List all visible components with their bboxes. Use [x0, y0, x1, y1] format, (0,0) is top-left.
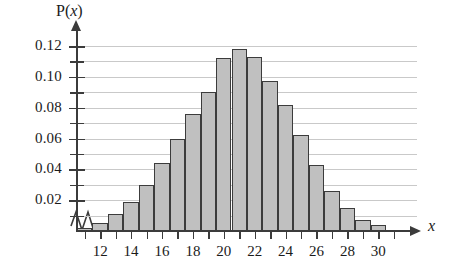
x-axis-tick-label: 20	[209, 243, 239, 259]
histogram-bar	[139, 185, 154, 231]
x-axis-tick	[224, 231, 225, 239]
x-axis-tick	[255, 231, 256, 239]
histogram-bar	[108, 214, 123, 231]
x-axis-tick	[85, 231, 86, 239]
histogram-bar	[185, 114, 200, 231]
x-axis-tick	[286, 231, 287, 239]
histogram-bar	[154, 163, 169, 231]
y-axis-arrow-icon	[71, 20, 81, 31]
x-axis-tick	[193, 231, 194, 239]
x-axis-tick	[394, 231, 395, 239]
histogram-bar	[278, 105, 293, 231]
histogram-bar	[123, 202, 138, 231]
x-axis-tick	[239, 231, 240, 239]
y-axis-title-prefix: P(	[56, 2, 70, 19]
histogram-bar	[309, 165, 324, 231]
x-axis-tick	[316, 231, 317, 239]
x-axis-tick-label: 12	[85, 243, 115, 259]
histogram-bar	[293, 135, 308, 231]
x-axis-tick	[332, 231, 333, 239]
x-axis-tick	[147, 231, 148, 239]
y-axis-tick-label: 0.06	[6, 131, 62, 146]
x-axis-tick	[378, 231, 379, 239]
y-axis-title: P(x)	[56, 2, 83, 19]
histogram-bar	[92, 223, 107, 231]
x-axis-tick	[162, 231, 163, 239]
histogram-bar	[340, 208, 355, 231]
histogram-bar	[201, 92, 216, 231]
x-axis-tick	[270, 231, 271, 239]
histogram-bars	[77, 46, 417, 231]
histogram-bar	[77, 228, 92, 231]
histogram-bar	[170, 139, 185, 232]
x-axis-tick-label: 26	[301, 243, 331, 259]
histogram-bar	[262, 81, 277, 231]
y-axis-tick-label: 0.10	[6, 69, 62, 84]
histogram-bar	[355, 220, 370, 231]
x-axis-tick	[301, 231, 302, 239]
x-axis-tick	[116, 231, 117, 239]
x-axis-tick	[131, 231, 132, 239]
probability-histogram-figure: P(x) x 0.120.100.080.060.040.02 12141618…	[0, 0, 450, 272]
histogram-bar	[216, 58, 231, 231]
y-axis-tick-label: 0.02	[6, 192, 62, 207]
x-axis-tick	[363, 231, 364, 239]
x-axis-tick-label: 14	[116, 243, 146, 259]
x-axis-tick	[177, 231, 178, 239]
x-axis-tick	[208, 231, 209, 239]
x-axis-tick-label: 30	[363, 243, 393, 259]
x-axis-tick	[347, 231, 348, 239]
x-axis-title: x	[428, 217, 435, 234]
y-axis-title-suffix: )	[77, 2, 82, 19]
x-axis-tick-label: 22	[240, 243, 270, 259]
histogram-bar	[247, 57, 262, 231]
y-axis-tick-label: 0.12	[6, 38, 62, 53]
y-axis-tick-label: 0.08	[6, 100, 62, 115]
x-axis-tick-label: 28	[332, 243, 362, 259]
x-axis-tick-label: 24	[271, 243, 301, 259]
histogram-bar	[232, 49, 247, 231]
histogram-bar	[324, 191, 339, 231]
x-axis-tick-label: 16	[147, 243, 177, 259]
histogram-bar	[371, 225, 386, 231]
y-axis-tick-label: 0.04	[6, 161, 62, 176]
x-axis-tick	[100, 231, 101, 239]
x-axis-tick-label: 18	[178, 243, 208, 259]
